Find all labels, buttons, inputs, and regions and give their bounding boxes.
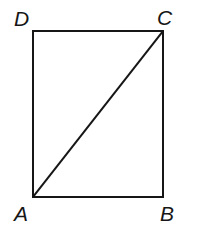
vertex-label-a: A — [14, 203, 28, 224]
diagonal-ac — [34, 32, 163, 196]
vertex-label-d: D — [14, 8, 29, 29]
geometry-figure: D C A B — [0, 0, 201, 239]
vertex-label-b: B — [160, 203, 174, 224]
vertex-label-c: C — [157, 7, 172, 28]
